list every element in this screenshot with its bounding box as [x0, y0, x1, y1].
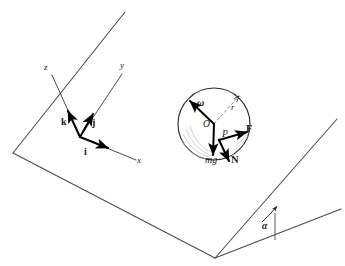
contact-point-label-P: P [222, 130, 228, 140]
weight-label-mg: mg [205, 155, 217, 165]
friction-label-F: F [246, 124, 252, 135]
unit-vector-arrows [68, 111, 108, 148]
diagram-canvas: z y x k j i ω r O P F mg N α [0, 0, 345, 266]
horizontal-ground-line [215, 209, 341, 258]
axis-label-y: y [120, 61, 124, 70]
sphere-center-label-O: O [203, 120, 210, 130]
contact-point-marker [218, 139, 221, 142]
axis-label-z: z [44, 63, 48, 72]
vector-k-arrow [68, 111, 80, 137]
unit-vector-label-i: i [84, 147, 87, 157]
diagram-svg [0, 0, 345, 266]
unit-vector-label-j: j [92, 118, 95, 128]
weight-vector [213, 124, 214, 155]
incline-angle-label-alpha: α [262, 222, 267, 232]
unit-vector-label-k: k [61, 117, 67, 127]
normal-force-label-N: N [231, 155, 239, 166]
inclined-plane [13, 12, 337, 258]
axis-label-x: x [137, 156, 141, 165]
angular-velocity-label: ω [197, 98, 204, 108]
radius-label-r: r [231, 103, 235, 112]
